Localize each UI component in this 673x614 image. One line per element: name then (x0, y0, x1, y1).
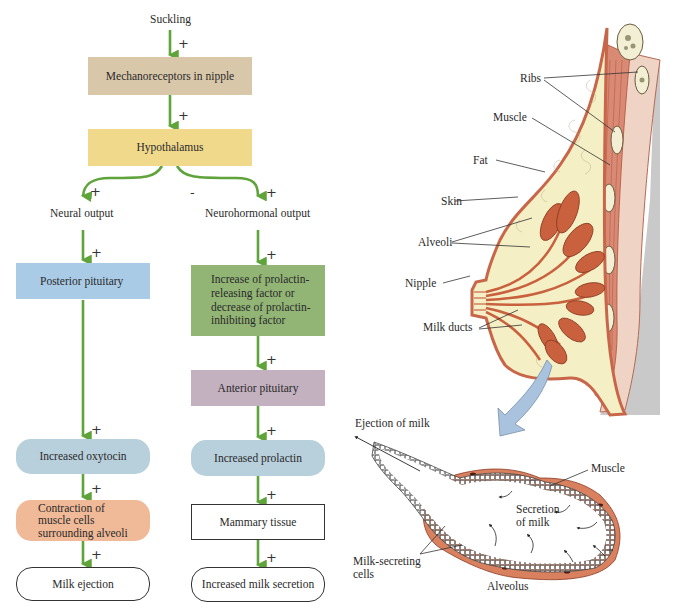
label-secretion-line2: of milk (516, 517, 550, 529)
label-ejection-of-milk: Ejection of milk (355, 418, 430, 430)
label-alveolus-muscle: Muscle (591, 463, 625, 475)
alveolus-lumen (378, 448, 606, 564)
label-alveolus: Alveolus (487, 581, 529, 593)
alveolus-illustration (0, 0, 673, 614)
label-milk-secreting-line2: cells (353, 569, 374, 581)
label-milk-secreting-line1: Milk-secreting (353, 556, 421, 568)
label-secretion-line1: Secretion (516, 504, 559, 516)
